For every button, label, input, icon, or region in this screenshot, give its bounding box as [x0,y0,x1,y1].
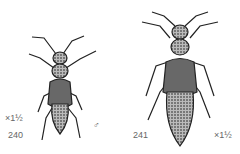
beetle-illustrations [0,0,240,154]
male-symbol: ♂ [93,120,100,130]
magnification-label-240: ×1½ [5,113,23,123]
figure-number-240: 240 [8,130,23,140]
illustration-plate: ×1½ 240 ♂ 241 ×1½ [0,0,240,154]
magnification-label-241: ×1½ [214,130,232,140]
figure-number-241: 241 [133,130,148,140]
beetle-240 [29,36,96,140]
beetle-241 [142,12,218,146]
